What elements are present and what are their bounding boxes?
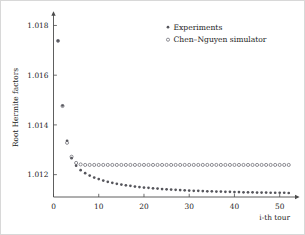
data-point-filled xyxy=(152,187,155,190)
data-point-filled xyxy=(183,189,186,192)
data-point-open xyxy=(102,163,105,166)
legend: ExperimentsChen–Nguyen simulator xyxy=(166,23,266,45)
data-point-filled xyxy=(161,188,164,191)
data-point-filled xyxy=(287,192,290,195)
data-point-filled xyxy=(274,191,277,194)
data-point-open xyxy=(124,163,127,166)
data-point-filled xyxy=(115,182,118,185)
data-point-filled xyxy=(283,191,286,194)
data-point-filled xyxy=(134,185,137,188)
data-point-open xyxy=(120,163,123,166)
data-point-filled xyxy=(224,190,227,193)
data-point-filled xyxy=(88,174,91,177)
data-point-open xyxy=(170,163,173,166)
data-point-filled xyxy=(174,188,177,191)
data-point-filled xyxy=(260,191,263,194)
data-point-open xyxy=(210,163,213,166)
data-points-layer xyxy=(56,39,290,194)
data-point-open xyxy=(269,163,272,166)
data-point-open xyxy=(188,163,191,166)
data-point-open xyxy=(115,163,118,166)
data-point-open xyxy=(283,163,286,166)
data-point-filled xyxy=(192,189,195,192)
data-point-filled xyxy=(233,191,236,194)
data-point-filled xyxy=(156,187,159,190)
data-point-open xyxy=(256,163,259,166)
x-tick-label: 40 xyxy=(230,202,240,211)
data-point-open xyxy=(151,163,154,166)
data-point-open xyxy=(265,163,268,166)
data-point-open xyxy=(88,163,91,166)
data-point-open xyxy=(246,163,249,166)
y-axis-arrow xyxy=(51,11,55,16)
data-point-open xyxy=(192,163,195,166)
data-point-open xyxy=(237,163,240,166)
y-tick-label: 1.014 xyxy=(27,121,48,130)
data-point-filled xyxy=(97,178,100,181)
legend-label: Chen–Nguyen simulator xyxy=(174,35,267,44)
data-point-open xyxy=(183,163,186,166)
legend-marker-open xyxy=(166,38,169,41)
data-point-filled xyxy=(197,189,200,192)
data-point-open xyxy=(79,163,82,166)
data-point-open xyxy=(156,163,159,166)
data-point-filled xyxy=(247,191,250,194)
data-point-filled xyxy=(210,190,213,193)
data-point-filled xyxy=(251,191,254,194)
x-tick-label: 10 xyxy=(94,202,104,211)
data-point-open xyxy=(251,163,254,166)
data-point-filled xyxy=(220,190,223,193)
data-point-filled xyxy=(215,190,218,193)
x-tick-label: 50 xyxy=(275,202,285,211)
data-point-open xyxy=(224,163,227,166)
data-point-open xyxy=(206,163,209,166)
series-2-points xyxy=(56,39,290,166)
data-point-open xyxy=(228,163,231,166)
data-point-open xyxy=(129,163,132,166)
data-point-filled xyxy=(188,189,191,192)
data-point-open xyxy=(201,163,204,166)
x-tick-label: 20 xyxy=(139,202,149,211)
data-point-open xyxy=(197,163,200,166)
data-point-filled xyxy=(229,190,232,193)
data-point-open xyxy=(179,163,182,166)
data-point-filled xyxy=(138,186,141,189)
data-point-open xyxy=(260,163,263,166)
data-point-filled xyxy=(111,181,114,184)
data-point-open xyxy=(215,163,218,166)
figure-container: 010203040501.0121.0141.0161.018 Experime… xyxy=(0,0,305,235)
data-point-filled xyxy=(147,186,150,189)
legend-marker-filled xyxy=(167,26,170,29)
data-point-open xyxy=(278,163,281,166)
x-axis-title: i-th tour xyxy=(259,213,290,222)
data-point-open xyxy=(111,163,114,166)
y-tick-label: 1.016 xyxy=(27,71,48,80)
data-point-filled xyxy=(238,191,241,194)
data-point-filled xyxy=(242,191,245,194)
data-point-filled xyxy=(179,189,182,192)
data-point-open xyxy=(242,163,245,166)
data-point-filled xyxy=(106,180,109,183)
data-point-filled xyxy=(79,169,82,172)
data-point-filled xyxy=(165,188,168,191)
data-point-open xyxy=(174,163,177,166)
data-point-open xyxy=(75,161,78,164)
scatter-plot: 010203040501.0121.0141.0161.018 Experime… xyxy=(1,1,305,235)
data-point-open xyxy=(233,163,236,166)
data-point-open xyxy=(106,163,109,166)
data-point-filled xyxy=(269,191,272,194)
data-point-open xyxy=(147,163,150,166)
data-point-open xyxy=(138,163,141,166)
data-point-filled xyxy=(102,179,105,182)
y-axis-title: Root Hermite factors xyxy=(11,68,20,147)
data-point-filled xyxy=(84,172,87,175)
x-tick-label: 0 xyxy=(51,202,56,211)
ticks-layer: 010203040501.0121.0141.0161.018 xyxy=(27,21,284,210)
series-1-points xyxy=(57,40,290,195)
data-point-open xyxy=(84,163,87,166)
data-point-filled xyxy=(143,186,146,189)
data-point-open xyxy=(287,163,290,166)
data-point-filled xyxy=(120,183,123,186)
data-point-open xyxy=(133,163,136,166)
data-point-open xyxy=(165,163,168,166)
